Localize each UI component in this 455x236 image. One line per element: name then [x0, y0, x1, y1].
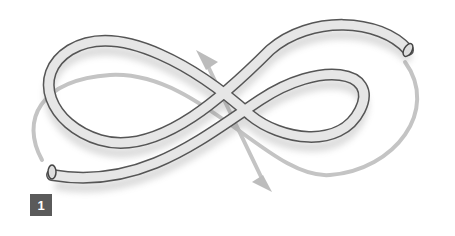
arrow-head-down-icon [252, 175, 272, 192]
illustration: 1 [0, 0, 455, 236]
hose-end-left [48, 165, 56, 179]
arrow-head-up-icon [196, 50, 218, 70]
step-number-badge: 1 [30, 194, 52, 216]
hose-figure-eight [0, 0, 455, 236]
